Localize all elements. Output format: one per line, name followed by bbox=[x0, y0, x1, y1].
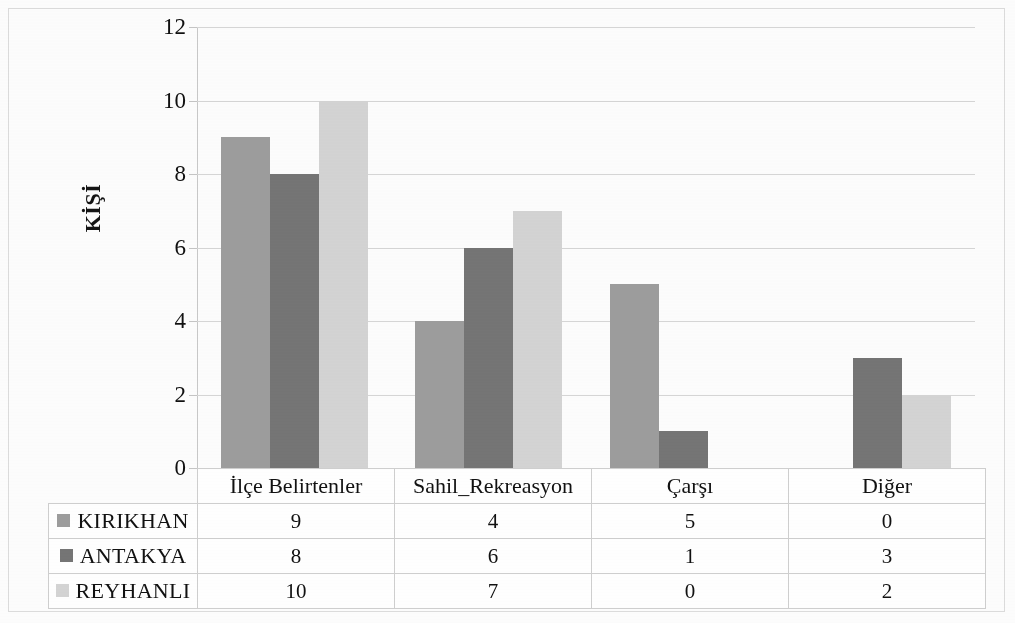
y-tick-label-12: 12 bbox=[126, 15, 186, 38]
legend-entry-reyhanli[interactable]: REYHANLI bbox=[49, 574, 198, 609]
y-tick-label-8: 8 bbox=[126, 162, 186, 185]
category-header-cell: İlçe Belirtenler bbox=[198, 469, 395, 504]
y-tick-label-10: 10 bbox=[126, 89, 186, 112]
bar-reyhanli-0[interactable] bbox=[319, 101, 368, 469]
chart-container: KİŞİ 024681012 İlçe BelirtenlerSahil_Rek… bbox=[0, 0, 1015, 623]
y-tick-mark-4 bbox=[189, 321, 197, 322]
bar-antakya-3[interactable] bbox=[853, 358, 902, 468]
bar-antakya-1[interactable] bbox=[464, 248, 513, 469]
bar-antakya-2[interactable] bbox=[659, 431, 708, 468]
category-header-cell: Sahil_Rekreasyon bbox=[395, 469, 592, 504]
y-axis-tick-labels: 024681012 bbox=[120, 27, 186, 468]
bar-kirikhan-0[interactable] bbox=[221, 137, 270, 468]
data-cell: 4 bbox=[395, 504, 592, 539]
data-cell: 7 bbox=[395, 574, 592, 609]
category-header-cell: Diğer bbox=[789, 469, 986, 504]
bar-stack bbox=[392, 27, 587, 468]
legend-entry-antakya[interactable]: ANTAKYA bbox=[49, 539, 198, 574]
table-row: REYHANLI10702 bbox=[49, 574, 986, 609]
legend-swatch-icon bbox=[56, 584, 69, 597]
bar-group bbox=[781, 27, 976, 468]
table-header-row: İlçe BelirtenlerSahil_RekreasyonÇarşıDiğ… bbox=[49, 469, 986, 504]
y-tick-label-4: 4 bbox=[126, 309, 186, 332]
y-tick-mark-6 bbox=[189, 248, 197, 249]
bar-antakya-0[interactable] bbox=[270, 174, 319, 468]
table-row: KIRIKHAN9450 bbox=[49, 504, 986, 539]
plot-area bbox=[197, 27, 975, 468]
legend-entry-kirikhan[interactable]: KIRIKHAN bbox=[49, 504, 198, 539]
bar-kirikhan-2[interactable] bbox=[610, 284, 659, 468]
legend-swatch-icon bbox=[57, 514, 70, 527]
bar-stack bbox=[781, 27, 976, 468]
y-axis-title: KİŞİ bbox=[80, 148, 106, 268]
y-tick-mark-8 bbox=[189, 174, 197, 175]
y-tick-mark-10 bbox=[189, 101, 197, 102]
legend-label: KIRIKHAN bbox=[77, 508, 188, 533]
bar-reyhanli-3[interactable] bbox=[902, 395, 951, 469]
data-cell: 8 bbox=[198, 539, 395, 574]
bar-group bbox=[586, 27, 781, 468]
table-row: ANTAKYA8613 bbox=[49, 539, 986, 574]
data-cell: 3 bbox=[789, 539, 986, 574]
data-cell: 5 bbox=[592, 504, 789, 539]
data-cell: 2 bbox=[789, 574, 986, 609]
bar-group bbox=[392, 27, 587, 468]
bar-kirikhan-1[interactable] bbox=[415, 321, 464, 468]
data-cell: 1 bbox=[592, 539, 789, 574]
bar-stack bbox=[197, 27, 392, 468]
data-cell: 0 bbox=[592, 574, 789, 609]
data-cell: 9 bbox=[198, 504, 395, 539]
data-cell: 6 bbox=[395, 539, 592, 574]
y-tick-mark-2 bbox=[189, 395, 197, 396]
data-cell: 10 bbox=[198, 574, 395, 609]
legend-label: ANTAKYA bbox=[80, 543, 187, 568]
data-cell: 0 bbox=[789, 504, 986, 539]
bar-stack bbox=[586, 27, 781, 468]
category-header-cell: Çarşı bbox=[592, 469, 789, 504]
table-corner-cell bbox=[49, 469, 198, 504]
legend-swatch-icon bbox=[60, 549, 73, 562]
y-tick-label-2: 2 bbox=[126, 383, 186, 406]
legend-label: REYHANLI bbox=[76, 578, 191, 603]
bar-reyhanli-1[interactable] bbox=[513, 211, 562, 468]
data-table: İlçe BelirtenlerSahil_RekreasyonÇarşıDiğ… bbox=[48, 468, 986, 609]
bar-group bbox=[197, 27, 392, 468]
y-tick-mark-12 bbox=[189, 27, 197, 28]
bar-groups bbox=[197, 27, 975, 468]
y-tick-label-6: 6 bbox=[126, 236, 186, 259]
